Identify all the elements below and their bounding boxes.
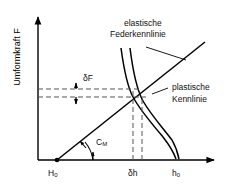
plastic-label-line2: Kennlinie	[172, 94, 207, 104]
slope-label: CM	[96, 137, 107, 149]
slope-angle-annotation	[80, 141, 93, 160]
slope-subscript: M	[102, 141, 107, 147]
delta-f-label: δF	[83, 73, 93, 83]
elastic-label-line2: Federkennlinie	[110, 29, 166, 39]
x-tick-h0-end-sub: 0	[177, 172, 180, 178]
plastic-label-line1: plastische	[172, 82, 210, 92]
plastic-curve-1	[121, 48, 176, 159]
x-tick-h0-start-sub: 0	[54, 172, 57, 178]
h0-start-point-marker	[55, 158, 60, 163]
guide-lines	[38, 89, 146, 160]
angle-arc	[85, 142, 93, 160]
elastic-label-line1: elastische	[124, 18, 162, 28]
plastic-label-leader	[152, 88, 168, 94]
x-tick-h0-start: H0	[48, 168, 57, 180]
y-axis-label: Umformkraft F	[12, 14, 22, 100]
elastic-label-leader	[146, 47, 186, 60]
x-tick-h0-end: h0	[172, 168, 180, 180]
x-tick-delta-h: δh	[128, 168, 137, 178]
figure-container: Umformkraft F elastische Federkennlinie …	[0, 0, 241, 191]
